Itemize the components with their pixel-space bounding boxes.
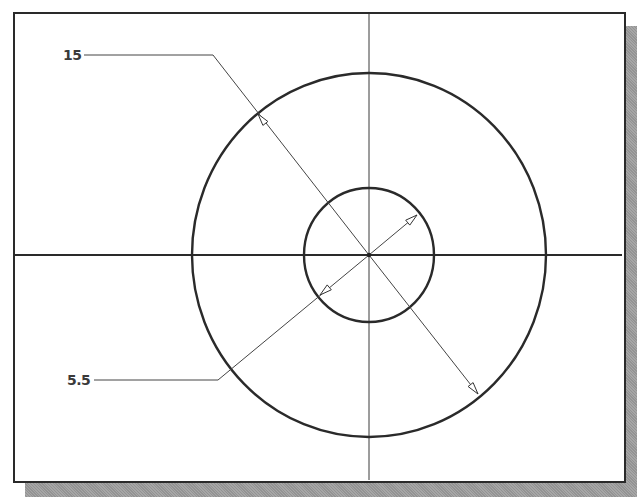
dimension-leader-line xyxy=(84,55,478,394)
outer-diameter-dimension[interactable] xyxy=(84,55,478,394)
arrowhead-icon xyxy=(468,383,478,394)
center-point[interactable] xyxy=(367,253,371,257)
sketch-geometry xyxy=(0,0,644,499)
inner-diameter-value[interactable]: 5.5 xyxy=(67,373,90,387)
drawing-canvas: 15 5.5 xyxy=(0,0,644,499)
arrowhead-icon xyxy=(320,285,331,295)
outer-diameter-value[interactable]: 15 xyxy=(63,48,81,62)
